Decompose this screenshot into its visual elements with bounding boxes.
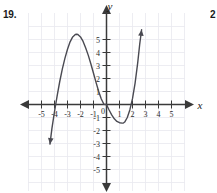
y-tick-label: 5 [96,36,100,45]
x-axis-right-arrow [185,100,194,109]
y-tick-label: 4 [96,49,100,58]
y-tick-label: -2 [93,127,100,136]
x-tick-label: 3 [144,110,148,119]
x-tick-label: 4 [157,110,161,119]
x-tick-label: 5 [170,110,174,119]
y-tick-label: -3 [93,140,100,149]
y-tick-label: -1 [93,114,100,123]
x-tick-label: -2 [77,110,84,119]
y-axis-label: y [107,0,113,12]
coordinate-plane: -5 -4 -3 -2 -1 0 1 2 3 4 5 5 4 3 2 1 -1 … [0,0,217,193]
x-tick-label: -5 [38,110,45,119]
y-axis-down-arrow [102,183,111,192]
y-tick-label: -5 [93,166,100,175]
axis-lines [24,9,190,188]
x-tick-label: 1 [118,110,122,119]
x-tick-label: -3 [64,110,71,119]
x-axis-left-arrow [20,100,29,109]
x-tick-label-origin: 0 [101,107,105,116]
x-axis-label: x [197,99,203,111]
y-tick-label: 3 [96,62,100,71]
graph-figure: 19. 2 [0,0,217,193]
y-tick-label: -4 [93,153,100,162]
x-tick-label: 2 [131,110,135,119]
